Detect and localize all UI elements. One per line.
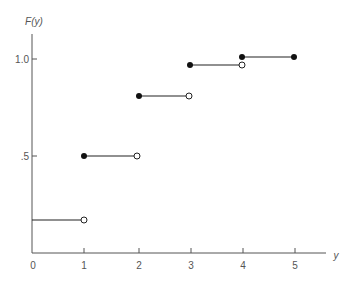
open-dot [134,153,140,159]
step-4 [239,54,297,60]
closed-dot [239,54,245,60]
x-tick-label-0: 0 [30,260,36,271]
step-2 [136,93,192,99]
x-tick-label-1: 1 [81,260,87,271]
x-tick-label-4: 4 [240,260,246,271]
y-tick-label-half: .5 [21,151,30,162]
open-dot [186,93,192,99]
step-1 [81,153,140,159]
cdf-step-chart: 1.0 .5 F(y) 0 1 2 3 4 5 y [0,0,352,292]
open-dot [81,217,87,223]
step-3 [187,62,245,68]
x-tick-label-2: 2 [136,260,142,271]
closed-dot [291,54,297,60]
y-tick-label-1: 1.0 [15,54,29,65]
x-tick-label-5: 5 [292,260,298,271]
closed-dot [136,93,142,99]
x-axis-label: y [333,250,340,261]
open-dot [239,62,245,68]
y-axis-label: F(y) [25,16,43,27]
closed-dot [187,62,193,68]
step-0 [32,217,87,223]
x-tick-label-3: 3 [188,260,194,271]
closed-dot [81,153,87,159]
